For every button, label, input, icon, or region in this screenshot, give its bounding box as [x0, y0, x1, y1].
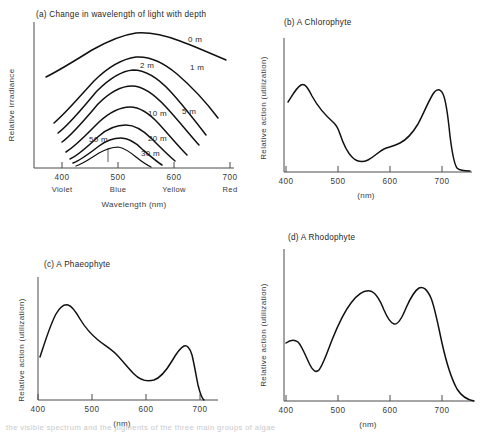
panel-c-curve-phaeophyte — [40, 305, 204, 400]
panel-b-x-axis-label: (nm) — [357, 191, 375, 200]
panel-b-xtick-label-2: 600 — [383, 177, 398, 186]
panel-a-x-axis-label: Wavelength (nm) — [101, 200, 166, 209]
panel-a-y-axis-label: Relative irradiance — [7, 68, 16, 141]
panel-d-plot: (d) A Rhodophyte Relative action (utiliz… — [246, 215, 482, 434]
figure-caption-strip: the visible spectrum and the pigments of… — [0, 424, 482, 434]
panel-a-color-label-blue: Blue — [110, 185, 126, 194]
panel-c-y-axis-label: Relative action (utilization) — [17, 298, 26, 402]
panel-a-depth-label-2m: 2 m — [140, 61, 154, 70]
panel-a-depth-label-20m: 20 m — [148, 134, 167, 143]
panel-a-curve-5m — [62, 86, 199, 145]
panel-b-xtick-label-3: 700 — [435, 177, 450, 186]
panel-d-curve-rhodophyte — [286, 287, 474, 401]
panel-a-light-with-depth: (a) Change in wavelength of light with d… — [0, 0, 246, 215]
panel-a-xtick-label-1: 500 — [111, 173, 126, 182]
panel-a-xtick-label-0: 400 — [55, 173, 70, 182]
panel-b-plot: (b) A Chlorophyte Relative action (utili… — [246, 0, 482, 215]
panel-a-curve-50m — [76, 147, 151, 167]
panel-c-phaeophyte: (c) A Phaeophyte Relative action (utiliz… — [0, 215, 246, 434]
panel-a-depth-label-10m: 10 m — [148, 109, 167, 118]
panel-b-y-axis-label: Relative action (utilization) — [259, 56, 268, 160]
panel-c-title: (c) A Phaeophyte — [44, 260, 111, 269]
panel-b-chlorophyte: (b) A Chlorophyte Relative action (utili… — [246, 0, 482, 215]
panel-a-color-label-violet: Violet — [52, 185, 73, 194]
panel-d-xtick-label-0: 400 — [279, 406, 294, 415]
panel-a-color-label-red: Red — [223, 185, 238, 194]
panel-c-plot: (c) A Phaeophyte Relative action (utiliz… — [0, 215, 246, 434]
panel-a-curve-10m — [66, 107, 187, 155]
panel-a-depth-label-5m: 5 m — [182, 107, 196, 116]
panel-c-xtick-label-0: 400 — [31, 405, 46, 414]
panel-a-depth-label-30m: 30 m — [141, 149, 160, 158]
panel-a-xtick-label-2: 600 — [167, 173, 182, 182]
panel-d-xtick-label-3: 700 — [435, 406, 450, 415]
panel-a-color-label-yellow: Yellow — [162, 185, 186, 194]
panel-d-y-axis-label: Relative action (utilization) — [259, 283, 268, 387]
panel-a-depth-label-50m: 50 m — [89, 135, 108, 144]
panel-a-plot: (a) Change in wavelength of light with d… — [0, 0, 246, 215]
panel-c-xtick-label-3: 700 — [193, 405, 208, 414]
panel-d-title: (d) A Rhodophyte — [288, 233, 355, 242]
panel-a-xtick-label-3: 700 — [223, 173, 238, 182]
panel-d-xtick-label-2: 600 — [383, 406, 398, 415]
panel-a-depth-label-1m: 1 m — [190, 63, 204, 72]
panel-b-curve-chlorophyte — [288, 85, 470, 171]
panel-c-xtick-label-1: 500 — [85, 405, 100, 414]
panel-b-title: (b) A Chlorophyte — [284, 18, 352, 27]
panel-a-depth-label-0m: 0 m — [188, 35, 202, 44]
panel-d-xtick-label-1: 500 — [331, 406, 346, 415]
panel-b-xtick-label-1: 500 — [331, 177, 346, 186]
figure-container: (a) Change in wavelength of light with d… — [0, 0, 482, 434]
figure-caption-text: the visible spectrum and the pigments of… — [6, 424, 275, 432]
panel-b-xtick-label-0: 400 — [279, 177, 294, 186]
panel-c-xtick-label-2: 600 — [139, 405, 154, 414]
panel-d-rhodophyte: (d) A Rhodophyte Relative action (utiliz… — [246, 215, 482, 434]
panel-a-title: (a) Change in wavelength of light with d… — [36, 10, 206, 19]
